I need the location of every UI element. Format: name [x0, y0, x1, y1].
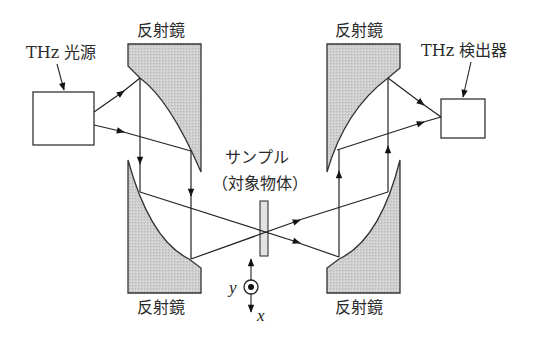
axis-x-label: x: [256, 306, 265, 325]
beam-detector-upper-cont: [420, 102, 441, 117]
axis-y-dot-icon: [248, 284, 254, 290]
beam-cross-1-cont: [296, 242, 339, 257]
axis-y-label: y: [227, 278, 237, 297]
detector-label: THz 検出器: [421, 41, 507, 60]
beam-cross-2-cont: [296, 192, 388, 221]
sample-label-line2: （対象物体）: [212, 174, 308, 193]
thz-source-box: [33, 92, 94, 145]
mirror-bottom-right-label: 反射鏡: [335, 298, 383, 317]
mirror-top-left: [128, 44, 201, 172]
mirror-bottom-left: [128, 160, 201, 293]
mirror-bottom-right: [327, 160, 400, 293]
beam-detector-lower: [337, 122, 424, 150]
thz-setup-diagram: y x THz 光源 THz 検出器 反射鏡 反射鏡 反射鏡 反射鏡 サンプル …: [0, 0, 537, 342]
sample-label-line1: サンプル: [225, 148, 289, 167]
mirror-bottom-left-label: 反射鏡: [137, 298, 185, 317]
beam-source-lower-cont: [120, 131, 191, 151]
beam-detector-lower-cont: [420, 117, 441, 123]
mirror-top-left-label: 反射鏡: [137, 21, 185, 40]
source-label: THz 光源: [26, 43, 96, 62]
beam-source-upper: [94, 91, 124, 112]
detector-pointer-arrow: [463, 62, 471, 97]
source-pointer-arrow: [57, 64, 64, 90]
beam-cross-1: [140, 192, 300, 243]
beam-source-upper-cont: [120, 78, 140, 94]
thz-detector-box: [441, 99, 485, 138]
beam-source-lower: [94, 125, 124, 132]
mirror-top-right: [327, 44, 400, 172]
beam-detector-upper: [388, 78, 424, 105]
sample-slab: [260, 201, 268, 256]
mirror-top-right-label: 反射鏡: [335, 21, 383, 40]
